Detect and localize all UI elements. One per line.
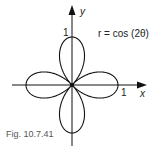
origin-dot: [70, 83, 74, 87]
x-axis-label: x: [140, 89, 145, 99]
y-tick-label: 1: [63, 28, 69, 38]
figure-caption: Fig. 10.7.41: [6, 130, 54, 139]
equation-label: r = cos (2θ): [98, 29, 149, 39]
y-axis-label: y: [80, 7, 85, 17]
x-tick-label: 1: [121, 88, 127, 98]
y-axis-arrow-icon: [69, 5, 76, 15]
